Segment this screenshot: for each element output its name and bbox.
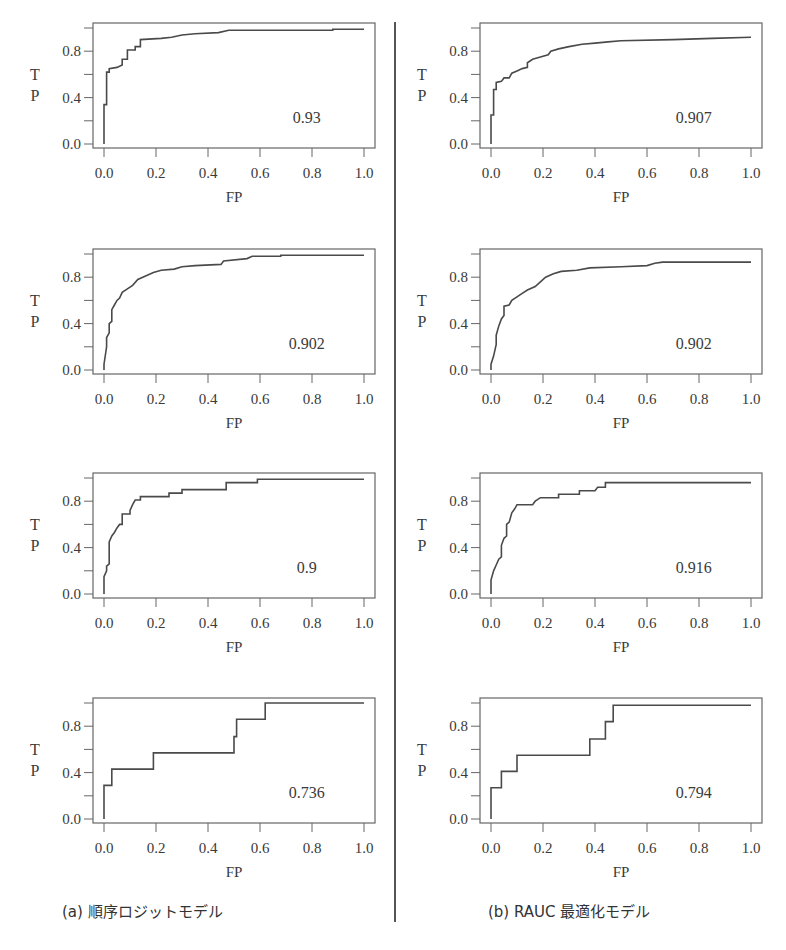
roc-curve — [104, 255, 364, 370]
x-tick-label: 0.8 — [690, 165, 709, 181]
x-tick-label: 0.2 — [534, 165, 553, 181]
roc-panel-b-2: 0.00.40.80.00.20.40.60.81.0FPTP0.902 — [417, 249, 762, 431]
roc-curve — [104, 703, 364, 819]
y-tick-label: 0.8 — [62, 718, 81, 734]
x-tick-label: 0.4 — [199, 615, 218, 631]
y-tick-label: 0.0 — [449, 811, 468, 827]
x-tick-label: 0.2 — [534, 615, 553, 631]
y-tick-label: 0.8 — [449, 269, 468, 285]
auc-annotation: 0.902 — [289, 335, 325, 352]
y-axis-label: P — [31, 87, 40, 104]
y-axis-label: P — [31, 313, 40, 330]
roc-curve — [491, 705, 751, 819]
y-tick-label: 0.8 — [449, 718, 468, 734]
y-axis-label: P — [418, 762, 427, 779]
x-tick-label: 0.0 — [95, 165, 114, 181]
x-tick-label: 0.8 — [303, 391, 322, 407]
x-tick-label: 0.6 — [251, 165, 270, 181]
x-tick-label: 0.6 — [251, 391, 270, 407]
roc-curve — [491, 262, 751, 370]
x-tick-label: 0.6 — [638, 615, 657, 631]
y-axis-label: T — [30, 292, 40, 309]
y-tick-label: 0.8 — [449, 43, 468, 59]
x-tick-label: 0.6 — [638, 391, 657, 407]
roc-curve — [491, 483, 751, 594]
roc-panel-b-4: 0.00.40.80.00.20.40.60.81.0FPTP0.794 — [417, 698, 762, 880]
roc-panel-a-1: 0.00.40.80.00.20.40.60.81.0FPTP0.93 — [30, 23, 375, 205]
y-axis-label: T — [30, 516, 40, 533]
x-tick-label: 1.0 — [742, 165, 761, 181]
y-tick-label: 0.0 — [449, 136, 468, 152]
x-tick-label: 0.8 — [690, 840, 709, 856]
y-tick-label: 0.4 — [62, 765, 81, 781]
roc-figure: 0.00.40.80.00.20.40.60.81.0FPTP0.930.00.… — [0, 0, 786, 950]
y-tick-label: 0.0 — [449, 586, 468, 602]
roc-curve — [104, 29, 364, 144]
x-tick-label: 0.6 — [638, 165, 657, 181]
y-axis-label: T — [30, 66, 40, 83]
y-axis-label: T — [417, 66, 427, 83]
plot-frame — [93, 698, 375, 823]
y-axis-label: T — [417, 741, 427, 758]
x-tick-label: 0.0 — [482, 391, 501, 407]
plot-frame — [480, 249, 762, 374]
y-tick-label: 0.0 — [62, 362, 81, 378]
plot-frame — [93, 473, 375, 598]
y-tick-label: 0.0 — [449, 362, 468, 378]
x-tick-label: 0.0 — [95, 615, 114, 631]
x-tick-label: 0.2 — [147, 165, 166, 181]
auc-annotation: 0.9 — [297, 559, 317, 576]
y-axis-label: P — [418, 313, 427, 330]
y-tick-label: 0.8 — [62, 43, 81, 59]
x-tick-label: 1.0 — [355, 840, 374, 856]
x-axis-label: FP — [226, 639, 243, 655]
y-axis-label: P — [31, 537, 40, 554]
x-tick-label: 0.4 — [586, 165, 605, 181]
y-axis-label: P — [31, 762, 40, 779]
y-tick-label: 0.4 — [449, 316, 468, 332]
y-tick-label: 0.8 — [62, 493, 81, 509]
x-tick-label: 0.6 — [638, 840, 657, 856]
plot-frame — [93, 249, 375, 374]
column-divider — [394, 22, 396, 922]
x-tick-label: 0.4 — [199, 391, 218, 407]
caption-ordered-logit: (a) 順序ロジットモデル — [62, 900, 223, 921]
x-tick-label: 0.8 — [690, 391, 709, 407]
x-tick-label: 1.0 — [742, 391, 761, 407]
x-tick-label: 0.0 — [95, 391, 114, 407]
roc-curve — [104, 479, 364, 594]
y-tick-label: 0.4 — [449, 90, 468, 106]
x-tick-label: 0.4 — [199, 165, 218, 181]
auc-annotation: 0.93 — [293, 109, 321, 126]
y-axis-label: P — [418, 87, 427, 104]
x-tick-label: 1.0 — [742, 840, 761, 856]
plot-frame — [480, 698, 762, 823]
caption-rauc-optimized: (b) RAUC 最適化モデル — [488, 900, 650, 921]
x-axis-label: FP — [613, 639, 630, 655]
y-tick-label: 0.4 — [62, 90, 81, 106]
y-tick-label: 0.8 — [62, 269, 81, 285]
x-tick-label: 0.8 — [303, 615, 322, 631]
x-tick-label: 0.8 — [303, 165, 322, 181]
x-tick-label: 0.6 — [251, 615, 270, 631]
y-tick-label: 0.4 — [62, 540, 81, 556]
auc-annotation: 0.736 — [289, 784, 325, 801]
x-tick-label: 0.0 — [95, 840, 114, 856]
plot-frame — [480, 473, 762, 598]
x-tick-label: 0.2 — [147, 840, 166, 856]
roc-panel-b-1: 0.00.40.80.00.20.40.60.81.0FPTP0.907 — [417, 23, 762, 205]
y-axis-label: T — [417, 516, 427, 533]
y-tick-label: 0.0 — [62, 586, 81, 602]
y-tick-label: 0.4 — [449, 540, 468, 556]
roc-panel-b-3: 0.00.40.80.00.20.40.60.81.0FPTP0.916 — [417, 473, 762, 655]
x-tick-label: 0.8 — [690, 615, 709, 631]
y-axis-label: P — [418, 537, 427, 554]
x-tick-label: 0.4 — [586, 615, 605, 631]
x-tick-label: 0.4 — [199, 840, 218, 856]
roc-curve — [491, 37, 751, 144]
auc-annotation: 0.794 — [676, 784, 712, 801]
x-axis-label: FP — [226, 864, 243, 880]
y-tick-label: 0.4 — [449, 765, 468, 781]
x-tick-label: 1.0 — [355, 165, 374, 181]
x-axis-label: FP — [226, 189, 243, 205]
